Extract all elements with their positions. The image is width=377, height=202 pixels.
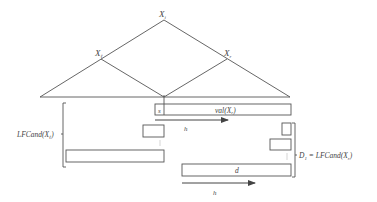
right-small-box [270, 139, 291, 150]
lfcand-tree-diagram: Xi Xℓ Xr s val(Xr) h LFCand(Xℓ) d D1 = L… [0, 0, 377, 202]
right-child-label: Xr [223, 48, 232, 59]
arrow-h-bottom-label: h [213, 189, 217, 197]
left-bracket [61, 103, 66, 167]
right-tiny-box [282, 123, 291, 135]
edge-right-mid [164, 59, 227, 97]
d-label: d [235, 166, 239, 175]
arrow-h-top-label: h [184, 125, 188, 133]
s-label: s [158, 107, 161, 115]
left-bracket-label: LFCand(Xℓ) [16, 130, 54, 140]
right-bracket [292, 123, 297, 177]
left-child-label: Xℓ [94, 48, 104, 59]
left-long-box [66, 150, 164, 162]
right-bracket-label: D1 = LFCand(Xr) [298, 151, 353, 161]
val-label: val(Xr) [215, 106, 236, 116]
edge-left-mid [101, 59, 164, 97]
tree-triangle [40, 20, 290, 104]
root-node-label: Xi [158, 9, 167, 20]
left-small-box [143, 125, 164, 137]
